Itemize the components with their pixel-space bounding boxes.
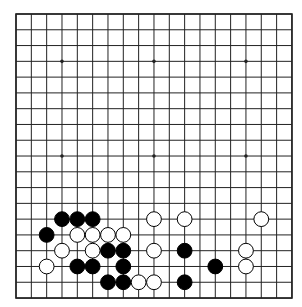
white-stone [55,243,70,258]
star-point [152,154,156,158]
white-stone [239,259,254,274]
star-point [152,60,156,64]
black-stone [101,243,116,258]
white-stone [39,259,54,274]
star-point [244,60,248,64]
star-point [244,154,248,158]
black-stone [85,259,100,274]
black-stone [70,212,85,227]
black-stone [208,259,223,274]
black-stone [55,212,70,227]
white-stone [239,243,254,258]
star-point [60,154,64,158]
black-stone [85,212,100,227]
white-stone [177,212,192,227]
black-stone [116,243,131,258]
black-stone [70,259,85,274]
go-board[interactable] [0,0,302,307]
black-stone [116,259,131,274]
black-stone [177,243,192,258]
white-stone [85,243,100,258]
white-stone [147,275,162,290]
white-stone [131,275,146,290]
black-stone [101,275,116,290]
white-stone [101,228,116,243]
white-stone [147,212,162,227]
white-stone [147,243,162,258]
star-point [60,60,64,64]
white-stone [85,228,100,243]
black-stone [177,275,192,290]
white-stone [70,228,85,243]
black-stone [116,275,131,290]
black-stone [39,228,54,243]
white-stone [254,212,269,227]
white-stone [116,228,131,243]
